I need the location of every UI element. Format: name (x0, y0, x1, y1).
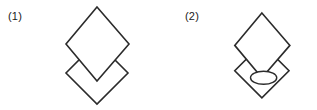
figure-2-drawing (177, 0, 317, 110)
figure-1-drawing (0, 0, 160, 110)
figure-canvas: (1) (2) (0, 0, 317, 110)
figure-2-inner-ellipse (251, 71, 277, 84)
